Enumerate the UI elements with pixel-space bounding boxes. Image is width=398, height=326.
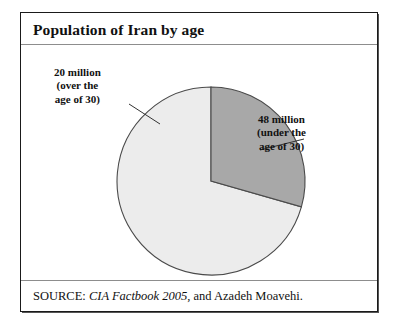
callout-under-30-line1: 48 million <box>258 113 305 125</box>
callout-over-30-line3: age of 30) <box>55 93 100 105</box>
source-label: SOURCE: <box>33 289 86 303</box>
chart-plot-area: 20 million (over the age of 30) 48 milli… <box>21 45 377 277</box>
figure-container: Population of Iran by age 20 million (ov… <box>20 12 378 312</box>
source-note: SOURCE: CIA Factbook 2005, and Azadeh Mo… <box>33 289 303 304</box>
source-author: , and Azadeh Moavehi. <box>187 289 303 303</box>
callout-under-30-line2: (under the <box>257 126 306 138</box>
callout-over-30-line1: 20 million <box>54 66 101 78</box>
source-divider <box>21 280 377 281</box>
callout-over-30-line2: (over the <box>57 79 99 91</box>
callout-under-30-line3: age of 30) <box>259 140 304 152</box>
page-title: Population of Iran by age <box>33 21 204 39</box>
callout-over-30: 20 million (over the age of 30) <box>54 66 101 106</box>
source-work-title: CIA Factbook 2005 <box>89 289 187 303</box>
callout-under-30: 48 million (under the age of 30) <box>257 113 306 153</box>
